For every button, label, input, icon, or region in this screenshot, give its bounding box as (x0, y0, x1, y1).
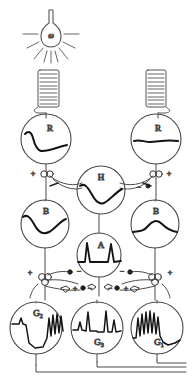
trace-R-left (25, 132, 67, 151)
sign-syn-g-left: − (88, 284, 93, 293)
sign-syn-r-right: + (167, 169, 172, 178)
sign-syn-a-l-in: − (77, 267, 82, 276)
trace-B-left (23, 216, 66, 233)
light-source-label: ω (48, 31, 54, 40)
sign-syn-a-l-out: + (73, 284, 78, 293)
sign-syn-g-right: − (108, 284, 113, 293)
cell-G1 (131, 300, 183, 360)
sign-syn-a-r-in: − (120, 267, 125, 276)
cell-label-R-right: R (155, 123, 161, 133)
cell-label-G2: G2 (33, 308, 43, 319)
synapse-r-right (150, 171, 162, 200)
cell-label-G1: G1 (154, 337, 164, 348)
figure-canvas: ω (0, 0, 194, 385)
output-bus (36, 360, 186, 372)
synapse-plexus-left (30, 270, 96, 300)
cell-A (77, 214, 121, 296)
cell-R-left (21, 113, 71, 172)
sign-syn-h-right: − (137, 183, 142, 192)
sign-syn-b-left: + (28, 268, 33, 277)
cell-label-G3: G3 (94, 337, 104, 348)
cell-label-B-right: B (153, 206, 159, 216)
trace-G2 (12, 314, 63, 348)
cell-G3 (71, 300, 123, 362)
cell-label-A: A (98, 240, 105, 250)
circuit-diagram: ω (0, 0, 194, 385)
sign-syn-b-right: + (168, 268, 173, 277)
resistor-right (146, 70, 170, 113)
sign-syn-r-left: + (31, 169, 36, 178)
cell-label-B-left: B (43, 206, 49, 216)
trace-B-right (133, 221, 177, 232)
cell-label-H: H (98, 172, 105, 182)
sign-syn-a-r-out: + (124, 284, 129, 293)
cell-label-R-left: R (47, 123, 53, 133)
trace-R-right (134, 140, 178, 142)
synapse-plexus-right (104, 270, 170, 300)
cell-R-right (131, 113, 181, 172)
trace-H (80, 185, 122, 204)
trace-G3 (73, 311, 121, 332)
resistor-left (34, 70, 59, 113)
